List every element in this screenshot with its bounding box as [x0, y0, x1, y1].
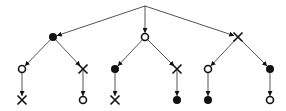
filled-circle-node-icon — [266, 65, 274, 73]
tree-edge — [25, 37, 53, 66]
hollow-circle-node-icon — [205, 66, 212, 73]
cross-node-icon — [111, 96, 120, 105]
cross-node-icon — [234, 33, 243, 42]
tree-edges — [22, 6, 270, 96]
tree-edge — [118, 37, 145, 66]
root-node-point — [144, 5, 145, 6]
filled-circle-node-icon — [173, 96, 181, 104]
tree-edge — [145, 37, 174, 66]
tree-nodes — [18, 5, 275, 104]
filled-circle-node-icon — [49, 33, 57, 41]
hollow-circle-node-icon — [19, 66, 26, 73]
hollow-circle-node-icon — [267, 97, 274, 104]
tree-edge — [145, 6, 234, 36]
cross-node-icon — [18, 96, 27, 105]
filled-circle-node-icon — [204, 96, 212, 104]
filled-circle-node-icon — [111, 65, 119, 73]
tree-edge — [57, 6, 145, 36]
tree-diagram — [0, 0, 286, 111]
hollow-circle-node-icon — [80, 97, 87, 104]
tree-edge — [53, 37, 80, 66]
hollow-circle-node-icon — [142, 34, 149, 41]
